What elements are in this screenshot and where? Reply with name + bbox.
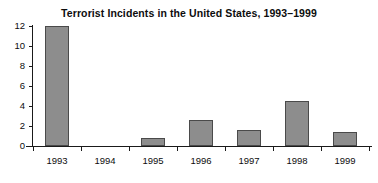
bar-chart-figure: Terrorist Incidents in the United States… <box>0 0 378 183</box>
x-axis-tick-mark <box>225 146 226 151</box>
bar-1998 <box>285 101 309 146</box>
chart-title: Terrorist Incidents in the United States… <box>0 7 378 19</box>
x-axis-label-1999: 1999 <box>315 155 375 166</box>
y-axis-tick-label: 10 <box>14 40 25 51</box>
y-axis-tick-label: 6 <box>20 80 25 91</box>
bar-1999 <box>333 132 357 146</box>
x-axis-tick-mark <box>177 146 178 151</box>
bar-1996 <box>189 120 213 146</box>
plot-area <box>33 26 369 146</box>
y-axis-ticks: 024681012 <box>0 0 33 147</box>
bar-1995 <box>141 138 165 146</box>
bar-1993 <box>45 26 69 146</box>
y-axis-tick-label: 2 <box>20 120 25 131</box>
x-axis-tick-mark <box>321 146 322 151</box>
y-axis-tick-label: 12 <box>14 20 25 31</box>
x-axis-tick-mark <box>273 146 274 151</box>
x-axis-tick-mark <box>33 146 34 151</box>
y-axis-tick-label: 8 <box>20 60 25 71</box>
y-axis-tick-label: 0 <box>20 140 25 151</box>
bar-1997 <box>237 130 261 146</box>
y-axis-tick-label: 4 <box>20 100 25 111</box>
x-axis-tick-mark <box>369 146 370 151</box>
x-axis-tick-mark <box>129 146 130 151</box>
x-axis-tick-mark <box>81 146 82 151</box>
